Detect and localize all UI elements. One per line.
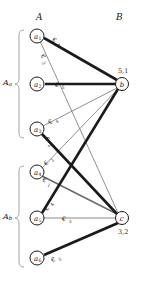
svg-text:€: € bbox=[39, 52, 47, 60]
edge-a1-c bbox=[40, 41, 118, 213]
svg-text:5: 5 bbox=[62, 85, 65, 90]
svg-text:4: 4 bbox=[55, 118, 60, 124]
svg-text:3: 3 bbox=[69, 219, 72, 224]
left-node-a3[interactable]: a 3 bbox=[30, 122, 44, 136]
svg-text:2: 2 bbox=[50, 157, 56, 163]
node-label-b: b bbox=[120, 81, 125, 89]
left-node-a2[interactable]: a 2 bbox=[30, 77, 44, 91]
left-node-a6[interactable]: a 6 bbox=[30, 251, 44, 265]
edge-layer bbox=[40, 38, 118, 255]
edge-label-a1-b: € 4 bbox=[49, 35, 63, 48]
node-sub-a4: 4 bbox=[39, 172, 42, 177]
svg-text:1: 1 bbox=[46, 182, 51, 188]
node-label-a5: a bbox=[34, 215, 38, 223]
weight-label-c: 3,2 bbox=[118, 228, 128, 236]
bipartite-graph-diagram: A B Aa Ab a 1 bbox=[0, 0, 143, 281]
node-label-a6: a bbox=[34, 255, 38, 263]
left-node-a5[interactable]: a 5 bbox=[30, 211, 44, 225]
node-label-a1: a bbox=[34, 33, 38, 41]
node-label-c: c bbox=[120, 215, 124, 223]
node-sub-a1: 1 bbox=[39, 36, 42, 41]
edge-a4-b bbox=[42, 89, 118, 168]
svg-text:€: € bbox=[49, 255, 56, 263]
svg-text:€: € bbox=[54, 81, 59, 88]
node-label-a4: a bbox=[34, 169, 38, 177]
graph-canvas: a 1 a 2 a 3 a 4 a 5 a 6 bbox=[0, 0, 143, 281]
edge-a5-b bbox=[42, 89, 118, 213]
node-sub-a3: 3 bbox=[39, 129, 42, 134]
node-sub-a2: 2 bbox=[39, 84, 42, 89]
edge-label-a2-b: € 5 bbox=[54, 81, 65, 90]
node-label-a3: a bbox=[34, 126, 38, 134]
svg-text:€: € bbox=[41, 159, 50, 167]
weight-label-b: 5,1 bbox=[118, 67, 128, 75]
svg-text:4: 4 bbox=[49, 202, 55, 207]
bracket-ab bbox=[15, 166, 24, 267]
svg-text:3: 3 bbox=[41, 61, 47, 66]
bracket-aa bbox=[15, 30, 24, 138]
svg-text:€: € bbox=[46, 117, 54, 126]
right-node-b[interactable]: b bbox=[116, 78, 129, 91]
svg-text:5: 5 bbox=[58, 256, 63, 262]
node-label-a2: a bbox=[34, 81, 38, 89]
node-sub-a6: 6 bbox=[39, 258, 42, 263]
left-node-a1[interactable]: a 1 bbox=[30, 29, 44, 43]
edge-label-a6-c: € 5 bbox=[49, 253, 63, 266]
node-sub-a5: 5 bbox=[39, 218, 42, 223]
svg-text:€: € bbox=[61, 215, 66, 222]
edge-a3-c bbox=[42, 134, 117, 214]
edge-label-a5-c: € 3 bbox=[61, 215, 72, 224]
edge-a6-c bbox=[44, 223, 118, 255]
left-node-a4[interactable]: a 4 bbox=[30, 165, 44, 179]
right-node-c[interactable]: c bbox=[116, 212, 129, 225]
